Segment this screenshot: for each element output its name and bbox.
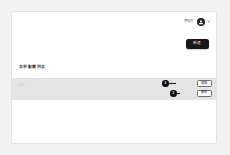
annotation-leader-line-1 (169, 83, 176, 84)
edit-button[interactable]: 编辑 (197, 80, 212, 87)
row-label: 名称 (18, 84, 24, 87)
annotation-1: 1 (162, 80, 176, 87)
content-empty-area (12, 100, 216, 143)
user-avatar-icon[interactable] (197, 18, 205, 26)
annotation-2: 2 (170, 90, 180, 97)
annotation-badge-2: 2 (170, 90, 177, 97)
account-menu[interactable]: 管理员 (184, 18, 210, 26)
row-action-buttons: 编辑 删除 (197, 80, 212, 97)
annotation-badge-1: 1 (162, 80, 169, 87)
delete-button[interactable]: 删除 (197, 90, 212, 97)
create-button[interactable]: 新建 (186, 39, 209, 49)
user-name-label: 管理员 (184, 20, 194, 24)
annotation-leader-line-2 (177, 93, 180, 94)
app-card: 管理员 新建 表单配置列表 名称 1 2 编辑 (11, 11, 217, 144)
section-heading: 表单配置列表 (19, 65, 46, 69)
action-bar: 新建 (12, 34, 216, 54)
top-bar: 管理员 (12, 12, 216, 32)
chevron-down-icon[interactable] (208, 21, 210, 23)
